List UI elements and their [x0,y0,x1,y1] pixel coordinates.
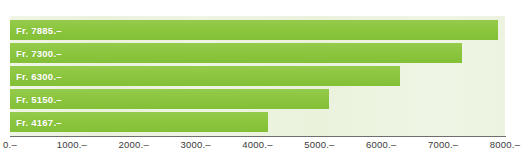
x-tick-label: 7000.– [428,139,458,150]
x-tick-label: 4000.– [242,139,272,150]
x-axis-line [10,136,506,137]
bar-row: Fr. 4167.– [10,112,505,132]
bar-row: Fr. 5150.– [10,89,505,109]
x-tick-label: 2000.– [119,139,149,150]
x-tick-label: 0.– [3,139,17,150]
x-tick-label: 5000.– [304,139,334,150]
bar-row: Fr. 6300.– [10,66,505,86]
bar-row: Fr. 7300.– [10,43,505,63]
x-tick-label: 1000.– [57,139,87,150]
x-axis-tick-labels: 0.–1000.–2000.–3000.–4000.–5000.–6000.–7… [0,139,523,159]
bar-value-label: Fr. 4167.– [10,117,62,128]
bar: Fr. 4167.– [10,112,268,132]
bar: Fr. 5150.– [10,89,329,109]
bar-chart: Fr. 7885.–Fr. 7300.–Fr. 6300.–Fr. 5150.–… [0,0,523,163]
bar-value-label: Fr. 7885.– [10,25,62,36]
bar-row: Fr. 7885.– [10,20,505,40]
x-tick-label: 8000.– [490,139,520,150]
bar: Fr. 6300.– [10,66,400,86]
bar-value-label: Fr. 7300.– [10,48,62,59]
bar-series: Fr. 7885.–Fr. 7300.–Fr. 6300.–Fr. 5150.–… [10,16,505,136]
bar-value-label: Fr. 5150.– [10,94,62,105]
bar: Fr. 7885.– [10,20,498,40]
x-tick-label: 3000.– [180,139,210,150]
bar-value-label: Fr. 6300.– [10,71,62,82]
plot-area: Fr. 7885.–Fr. 7300.–Fr. 6300.–Fr. 5150.–… [10,16,505,136]
bar: Fr. 7300.– [10,43,462,63]
cropped-title-remnant [0,0,523,9]
x-tick-label: 6000.– [366,139,396,150]
